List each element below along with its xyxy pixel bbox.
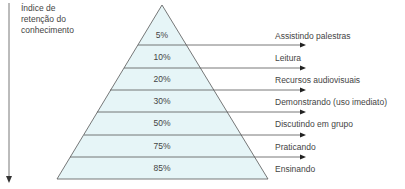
level-percent: 10% xyxy=(142,52,182,62)
level-method: Demonstrando (uso imediato) xyxy=(275,97,387,107)
arrow-head-icon xyxy=(300,110,306,115)
level-percent: 20% xyxy=(142,74,182,84)
axis-label-line: Índice de xyxy=(21,3,121,14)
axis-label-line: conhecimento xyxy=(21,25,121,36)
arrow-head-icon xyxy=(300,43,306,48)
axis-label: Índice de retenção do conhecimento xyxy=(21,3,121,36)
axis-arrowhead-icon xyxy=(6,176,12,183)
arrow-head-icon xyxy=(300,66,306,71)
arrow-head-icon xyxy=(300,133,306,138)
level-method: Ensinando xyxy=(275,164,315,174)
arrow-head-icon xyxy=(300,155,306,160)
arrow-head-icon xyxy=(300,88,306,93)
level-method: Leitura xyxy=(275,53,301,63)
level-percent: 85% xyxy=(142,163,182,173)
axis-label-line: retenção do xyxy=(21,14,121,25)
level-method: Assistindo palestras xyxy=(275,31,351,41)
level-percent: 5% xyxy=(142,30,182,40)
level-method: Praticando xyxy=(275,142,316,152)
level-method: Recursos audiovisuais xyxy=(275,75,360,85)
level-method: Discutindo em grupo xyxy=(275,119,353,129)
level-percent: 50% xyxy=(142,118,182,128)
level-percent: 75% xyxy=(142,141,182,151)
level-percent: 30% xyxy=(142,96,182,106)
